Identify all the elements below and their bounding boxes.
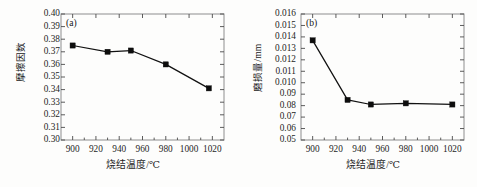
plot-area-a <box>0 0 238 187</box>
figure-container: 摩擦因数 0.400.390.380.370.360.350.340.330.3… <box>0 0 477 187</box>
chart-panel-a: 摩擦因数 0.400.390.380.370.360.350.340.330.3… <box>0 0 238 187</box>
plot-area-b <box>238 0 476 187</box>
chart-panel-b: 磨损量/mm 0.0160.0150.0140.0130.0120.0110.0… <box>238 0 476 187</box>
